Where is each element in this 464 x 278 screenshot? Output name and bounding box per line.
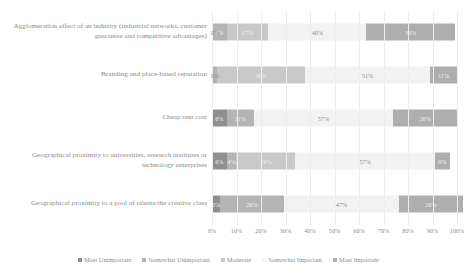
legend-swatch-icon [333,258,337,262]
bar-segment: 6% [435,152,450,169]
bar-segment: 6% [212,109,227,126]
plot-area: Agglomeration effect of an industry (ind… [0,10,457,225]
bar-segment-label: 6% [215,114,223,121]
x-axis-tick: 100% [450,227,464,234]
stacked-bar: 2%26%47%26% [212,195,457,212]
bar-segment: 36% [217,66,305,83]
legend-label: Most Important [339,256,379,263]
bar-segment-label: 51% [362,71,373,78]
legend-swatch-icon [78,258,82,262]
x-axis-tick: 60% [353,227,364,234]
bar-segment-label: 24% [260,157,271,164]
bar-segment-label: 2% [212,200,220,207]
bar-segment: 57% [295,152,435,169]
bar-row: Geographical proximity to universities, … [0,139,457,182]
category-label: Geographical proximity to a pool of tale… [0,199,212,208]
x-axis-tick: 20% [255,227,266,234]
bar-segment: 11% [430,66,457,83]
bar-segment-label: 0% [211,71,219,78]
x-axis-tick: 0% [208,227,216,234]
legend-label: Somewhat Unimportant [148,256,209,263]
bar-segment: 36% [366,23,454,40]
bar-segment: 26% [220,195,284,212]
bar-segment: 6% [212,152,227,169]
legend-swatch-icon [221,258,225,262]
x-axis-tick: 40% [304,227,315,234]
bar-segment-label: 40% [312,28,323,35]
bar-segment-label: 26% [425,200,436,207]
chart-legend: Most UnimportantSomewhat UnimportantMode… [0,256,457,263]
legend-item[interactable]: Most Unimportant [78,256,131,263]
bar-row: Branding and place-based reputation0%36%… [0,53,457,96]
bar-track: 0%6%17%40%36% [212,10,457,53]
bar-segment-label: 36% [255,71,266,78]
bar-segment-label: 0% [211,28,219,35]
bar-segment-label: 26% [419,114,430,121]
bar-segment: 47% [284,195,399,212]
bar-row: Geographical proximity to a pool of tale… [0,182,457,225]
legend-label: Somewhat Important [268,256,322,263]
stacked-bar: 36%51%11% [212,66,457,83]
bar-segment: 26% [399,195,463,212]
stacked-bar: 6%17%40%36% [212,23,457,40]
stacked-bar: 6%4%24%57%6% [212,152,457,169]
stacked-bar: 6%11%57%26% [212,109,457,126]
x-axis-tick: 50% [329,227,340,234]
x-axis-tick: 70% [378,227,389,234]
legend-item[interactable]: Somewhat Unimportant [142,256,209,263]
bar-track: 0%36%51%11% [212,53,457,96]
bar-track: 6%11%57%26% [212,96,457,139]
bar-segment-label: 6% [215,157,223,164]
bar-segment: 24% [236,152,295,169]
legend-swatch-icon [142,258,146,262]
category-label: Cheap rent cost [0,113,212,122]
bar-segment-label: 26% [246,200,257,207]
bar-segment-label: 36% [405,28,416,35]
bar-segment-label: 17% [242,28,253,35]
category-label: Branding and place-based reputation [0,70,212,79]
legend-label: Moderate [227,256,252,263]
bar-segment-label: 6% [438,157,446,164]
x-axis-tick: 80% [402,227,413,234]
bar-segment-label: 57% [359,157,370,164]
bar-rows: Agglomeration effect of an industry (ind… [0,10,457,225]
legend-item[interactable]: Somewhat Important [262,256,322,263]
bar-segment: 51% [305,66,430,83]
bar-segment-label: 11% [235,114,246,121]
category-label: Geographical proximity to universities, … [0,151,212,170]
x-axis: 0%10%20%30%40%50%60%70%80%90%100% [212,227,457,241]
bar-segment: 2% [212,195,220,212]
legend-swatch-icon [262,258,266,262]
legend-item[interactable]: Most Important [333,256,379,263]
x-axis-tick: 10% [231,227,242,234]
legend-label: Most Unimportant [84,256,131,263]
bar-segment: 57% [254,109,394,126]
bar-row: Agglomeration effect of an industry (ind… [0,10,457,53]
bar-segment: 26% [393,109,457,126]
bar-segment-label: 47% [336,200,347,207]
bar-row: Cheap rent cost6%11%57%26% [0,96,457,139]
legend-item[interactable]: Moderate [221,256,252,263]
bar-track: 6%4%24%57%6% [212,139,457,182]
category-label: Agglomeration effect of an industry (ind… [0,22,212,41]
bar-segment: 4% [227,152,237,169]
x-axis-tick: 30% [280,227,291,234]
bar-track: 2%26%47%26% [212,182,457,225]
gridline [457,10,458,225]
bar-segment: 17% [227,23,269,40]
bar-segment: 11% [227,109,254,126]
bar-segment-label: 57% [318,114,329,121]
bar-segment-label: 4% [227,157,235,164]
bar-segment: 40% [268,23,366,40]
bar-segment-label: 11% [438,71,449,78]
x-axis-tick: 90% [427,227,438,234]
